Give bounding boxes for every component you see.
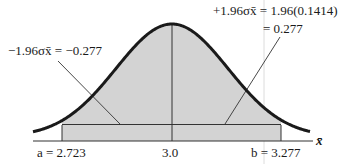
mean-label: 3.0: [162, 146, 178, 159]
right-bound-label: b = 3.277: [251, 146, 301, 159]
left-bound-label: a = 2.723: [37, 146, 86, 159]
right-annotation-line1: +1.96σx̄ = 1.96(0.1414): [213, 4, 338, 17]
left-annotation: −1.96σx̄ = −0.277: [8, 44, 102, 57]
x-axis-label: x̄: [316, 134, 323, 147]
right-annotation-line2: = 0.277: [263, 22, 303, 35]
